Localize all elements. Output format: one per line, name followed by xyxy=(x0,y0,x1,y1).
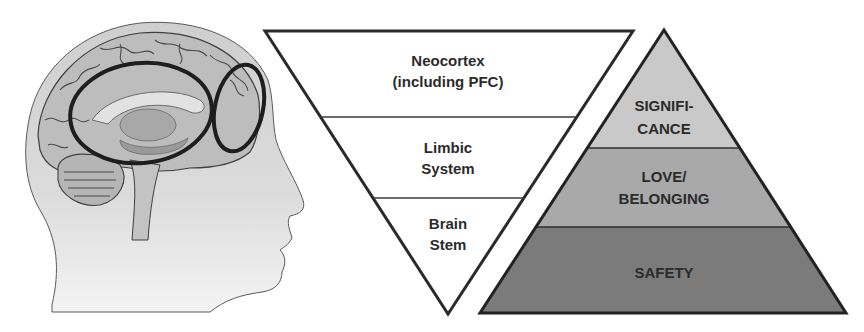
need-safety-line1: SAFETY xyxy=(634,264,693,281)
need-love-line2: BELONGING xyxy=(619,190,710,207)
brain-layer-neocortex-line2: (including PFC) xyxy=(393,73,504,90)
brain-layer-limbic-line1: Limbic xyxy=(424,139,472,156)
head-illustration xyxy=(26,22,304,312)
need-love-line1: LOVE/ xyxy=(641,168,687,185)
brain-layer-stem-line1: Brain xyxy=(429,215,467,232)
brain-layer-neocortex-line1: Neocortex xyxy=(411,52,485,69)
need-significance-line1: SIGNIFI- xyxy=(634,97,693,114)
need-significance-line2: CANCE xyxy=(637,120,690,137)
brain-layer-stem-line2: Stem xyxy=(430,236,467,253)
thalamus xyxy=(120,109,176,141)
brain-layer-limbic-line2: System xyxy=(421,160,474,177)
brain-needs-diagram: Neocortex (including PFC) Limbic System … xyxy=(0,0,864,332)
pyramid-band-love-belonging xyxy=(536,148,792,227)
